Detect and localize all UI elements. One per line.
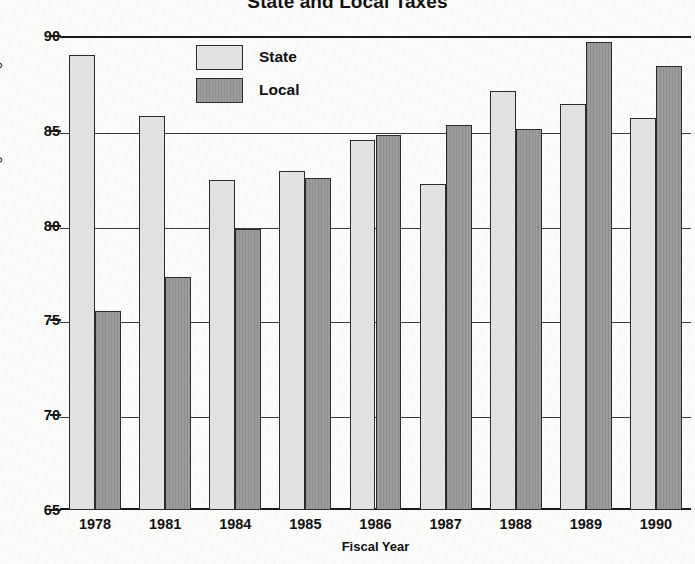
legend-item-local: Local [196,75,299,105]
x-tick-label: 1981 [149,516,181,532]
chart-title: State and Local Taxes [0,0,695,13]
bars-layer [60,36,691,510]
x-tick-label: 1990 [640,516,672,532]
bar-local-1984 [235,229,261,510]
chart-legend: State Local [196,42,299,108]
bar-state-1988 [490,91,516,510]
legend-label-local: Local [259,81,299,99]
x-tick-label: 1989 [570,516,602,532]
bar-local-1990 [656,66,682,510]
x-axis-title: Fiscal Year [60,539,691,554]
x-tick-label: 1984 [219,516,251,532]
bar-local-1978 [95,311,121,510]
legend-item-state: State [196,42,299,72]
bar-state-1981 [139,116,165,510]
legend-label-state: State [259,48,297,66]
x-tick-label: 1987 [429,516,461,532]
legend-swatch-state-icon [196,45,243,70]
x-tick-label: 1985 [289,516,321,532]
bar-local-1989 [586,42,612,510]
bar-local-1988 [516,129,542,510]
bar-local-1987 [446,125,472,510]
bar-state-1984 [209,180,235,510]
y-axis-title: Percentage of U.S. Average [0,15,2,255]
legend-swatch-local-icon [196,78,243,103]
bar-state-1987 [420,184,446,510]
x-tick-label: 1978 [79,516,111,532]
chart-page: State and Local Taxes Percentage of U.S.… [0,0,695,564]
bar-state-1989 [560,104,586,510]
bar-local-1985 [305,178,331,510]
x-tick-label: 1988 [500,516,532,532]
bar-state-1986 [350,140,376,510]
bar-state-1978 [69,55,95,510]
bar-state-1990 [630,118,656,510]
bar-local-1981 [165,277,191,510]
x-tick-label: 1986 [359,516,391,532]
bar-state-1985 [279,171,305,510]
bar-local-1986 [376,135,402,510]
